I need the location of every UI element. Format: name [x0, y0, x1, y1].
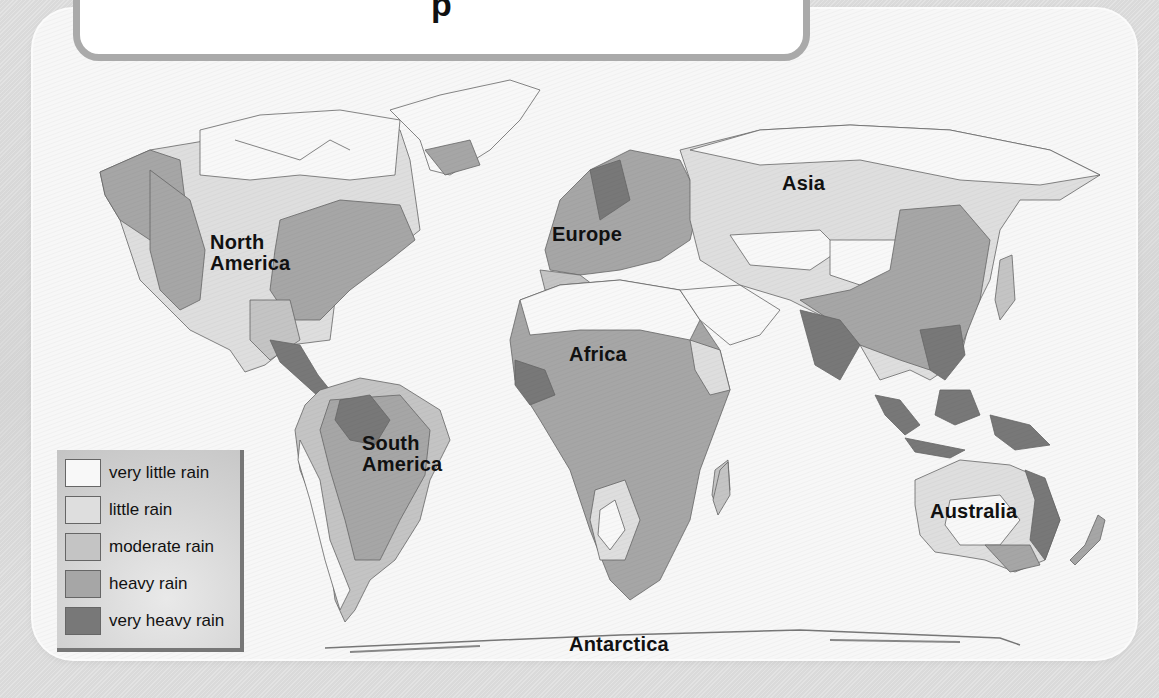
legend-swatch [65, 496, 101, 524]
legend-item: very little rain [65, 459, 209, 487]
map-title: p [80, 0, 803, 24]
legend-label: little rain [109, 500, 172, 520]
label-south-america: South America [362, 433, 442, 475]
title-box: p [73, 0, 810, 61]
legend-swatch [65, 607, 101, 635]
legend-swatch [65, 459, 101, 487]
label-north-america: North America [210, 232, 290, 274]
legend-swatch [65, 570, 101, 598]
legend-item: heavy rain [65, 570, 187, 598]
label-asia: Asia [782, 173, 825, 194]
legend-label: very heavy rain [109, 611, 224, 631]
legend-label: moderate rain [109, 537, 214, 557]
legend-swatch [65, 533, 101, 561]
legend-item: very heavy rain [65, 607, 224, 635]
legend-label: very little rain [109, 463, 209, 483]
legend-item: little rain [65, 496, 172, 524]
label-antarctica: Antarctica [569, 634, 669, 655]
legend: very little rain little rain moderate ra… [57, 450, 244, 652]
label-africa: Africa [569, 344, 627, 365]
legend-label: heavy rain [109, 574, 187, 594]
legend-item: moderate rain [65, 533, 214, 561]
label-australia: Australia [930, 501, 1017, 522]
label-europe: Europe [552, 224, 622, 245]
